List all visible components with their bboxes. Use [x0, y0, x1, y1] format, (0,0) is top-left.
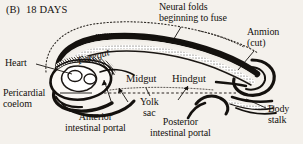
leader-midgut	[118, 88, 128, 102]
panel-letter: (B)	[6, 4, 20, 15]
label-hindgut: Hindgut	[172, 73, 206, 84]
leader-yolk-sac	[146, 88, 150, 96]
embryo-figure: (B) 18 DAYS Neural folds beginning to fu…	[0, 0, 303, 144]
label-yolk-sac: Yolk sac	[140, 97, 159, 119]
label-posterior-intestinal-portal: Posterior intestinal portal	[150, 117, 211, 139]
label-midgut: Midgut	[126, 73, 156, 84]
label-heart: Heart	[5, 58, 27, 69]
label-anterior-intestinal-portal: Anterior intestinal portal	[65, 112, 126, 134]
heart-pericardial-group	[51, 59, 134, 116]
yolk-sac-boundary-group	[104, 87, 236, 93]
panel-title: 18 DAYS	[26, 4, 67, 15]
label-amnion: Anmion (cut)	[247, 27, 279, 49]
label-neural-folds: Neural folds beginning to fuse	[159, 2, 227, 24]
label-body-stalk: Body stalk	[268, 104, 289, 126]
label-pericardial-coelom: Pericardial coelom	[3, 88, 45, 110]
